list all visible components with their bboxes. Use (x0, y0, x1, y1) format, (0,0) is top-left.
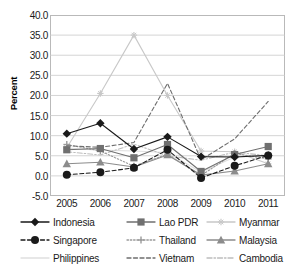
y-axis-tick-label: 35.0 (30, 30, 48, 41)
y-axis-tick-label: 10.0 (30, 130, 48, 141)
y-axis-tick-label: 5.0 (35, 150, 48, 161)
legend-swatch-vietnam (126, 251, 156, 265)
y-axis-tick-labels: 40.035.030.025.020.015.010.05.00.0-5.0 (0, 0, 50, 205)
legend-line-icon (20, 251, 50, 265)
x-axis-tick-label: 2005 (56, 198, 77, 209)
data-point-square (137, 218, 144, 225)
legend-item-cambodia[interactable]: Cambodia (206, 250, 289, 266)
y-axis-tick-label: 20.0 (30, 90, 48, 101)
data-point-star (164, 92, 170, 98)
data-point-square (265, 143, 272, 150)
x-axis-tick-label: 2011 (258, 198, 278, 209)
legend-item-vietnam[interactable]: Vietnam (126, 250, 206, 266)
data-point-circle (63, 171, 71, 179)
legend-row: SingaporeThailandMalaysia (20, 232, 286, 248)
legend-item-singapore[interactable]: Singapore (20, 232, 126, 248)
x-axis-tick-labels: 2005200620072008200920102011 (50, 198, 285, 214)
legend-label: Myanmar (239, 217, 279, 228)
data-point-circle (31, 236, 39, 244)
legend-swatch-singapore (20, 233, 50, 247)
data-point-plus (138, 237, 145, 244)
legend-label: Thailand (159, 235, 196, 246)
legend-line-icon (206, 251, 236, 265)
y-axis-tick-label: -5.0 (32, 191, 48, 202)
legend-item-malaysia[interactable]: Malaysia (206, 232, 289, 248)
legend-label: Lao PDR (159, 217, 198, 228)
data-point-circle (164, 146, 172, 154)
legend-item-indonesia[interactable]: Indonesia (20, 214, 126, 230)
legend-item-myanmar[interactable]: Myanmar (206, 214, 289, 230)
data-point-diamond (63, 129, 71, 137)
y-axis-tick-label: 30.0 (30, 50, 48, 61)
legend-line-icon (206, 233, 236, 247)
data-point-circle (264, 151, 272, 159)
legend-swatch-malaysia (206, 233, 236, 247)
data-point-diamond (31, 218, 39, 226)
legend-item-philippines[interactable]: Philippines (20, 250, 126, 266)
legend-line-icon (126, 251, 156, 265)
legend-line-icon (126, 233, 156, 247)
legend-swatch-thailand (126, 233, 156, 247)
data-point-star (97, 90, 103, 96)
data-point-square (97, 145, 104, 152)
data-point-diamond (163, 133, 171, 141)
x-axis-tick-label: 2009 (191, 198, 212, 209)
y-axis-tick-label: 40.0 (30, 10, 48, 21)
legend-label: Singapore (53, 235, 97, 246)
data-point-circle (130, 164, 138, 172)
legend-swatch-lao-pdr (126, 215, 156, 229)
data-point-star (131, 32, 137, 38)
legend-row: IndonesiaLao PDRMyanmar (20, 214, 286, 230)
data-point-triangle (96, 158, 104, 166)
series-singapore (63, 146, 272, 182)
legend-line-icon (206, 215, 236, 229)
legend-swatch-cambodia (206, 251, 236, 265)
chart-legend: IndonesiaLao PDRMyanmarSingaporeThailand… (20, 214, 286, 270)
y-axis-tick-label: 25.0 (30, 70, 48, 81)
legend-swatch-philippines (20, 251, 50, 265)
legend-label: Malaysia (239, 235, 277, 246)
legend-label: Cambodia (239, 253, 283, 264)
legend-label: Philippines (53, 253, 99, 264)
legend-item-thailand[interactable]: Thailand (126, 232, 206, 248)
legend-line-icon (126, 215, 156, 229)
data-point-circle (231, 162, 239, 170)
line-chart: Percent 40.035.030.025.020.015.010.05.00… (0, 0, 289, 272)
x-axis-tick-label: 2007 (123, 198, 144, 209)
legend-swatch-indonesia (20, 215, 50, 229)
y-axis-tick-label: 0.0 (35, 170, 48, 181)
x-axis-tick-label: 2010 (224, 198, 245, 209)
x-axis-tick-label: 2008 (157, 198, 178, 209)
legend-label: Indonesia (53, 217, 95, 228)
plot-series-layer (50, 15, 285, 196)
data-point-square (130, 154, 137, 161)
legend-swatch-myanmar (206, 215, 236, 229)
data-point-circle (197, 174, 205, 182)
legend-line-icon (20, 233, 50, 247)
data-point-square (63, 146, 70, 153)
legend-row: PhilippinesVietnamCambodia (20, 250, 286, 266)
legend-item-lao-pdr[interactable]: Lao PDR (126, 214, 206, 230)
data-point-circle (96, 168, 104, 176)
y-axis-tick-label: 15.0 (30, 110, 48, 121)
legend-line-icon (20, 215, 50, 229)
legend-label: Vietnam (159, 253, 194, 264)
x-axis-tick-label: 2006 (90, 198, 111, 209)
data-point-star (218, 219, 224, 225)
